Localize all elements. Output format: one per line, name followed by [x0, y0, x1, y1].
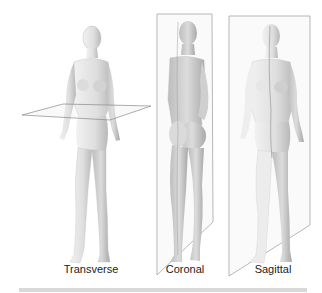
bottom-divider-bar [19, 288, 307, 292]
transverse-figure [22, 26, 151, 263]
sagittal-figure [229, 16, 310, 276]
label-sagittal: Sagittal [233, 263, 313, 275]
transverse-plane [22, 104, 151, 120]
coronal-figure [157, 14, 213, 275]
label-coronal: Coronal [145, 263, 225, 275]
anatomical-planes-figure: Transverse Coronal Sagittal [0, 0, 322, 293]
label-transverse: Transverse [51, 263, 131, 275]
figure-illustration [0, 0, 322, 293]
